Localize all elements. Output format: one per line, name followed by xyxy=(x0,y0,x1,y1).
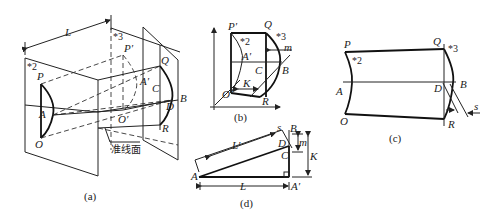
panel-c: P Q *3 *2 A D B O R s (c) xyxy=(335,35,480,145)
svg-text:R: R xyxy=(261,95,269,107)
panel-d: L′ s B D m C K A L A′ (d) xyxy=(190,121,318,210)
svg-text:A: A xyxy=(38,108,46,120)
svg-text:K: K xyxy=(242,77,251,89)
svg-text:O: O xyxy=(340,115,348,127)
svg-text:Q: Q xyxy=(161,54,169,66)
svg-text:*3: *3 xyxy=(113,31,123,42)
svg-text:R: R xyxy=(161,122,169,134)
svg-text:C: C xyxy=(152,82,160,94)
svg-text:O: O xyxy=(35,138,43,150)
svg-text:*2: *2 xyxy=(27,61,37,72)
svg-text:P: P xyxy=(36,70,44,82)
caption-a: (a) xyxy=(84,190,97,203)
svg-text:s: s xyxy=(277,121,281,133)
svg-text:D: D xyxy=(277,137,286,149)
svg-text:B: B xyxy=(290,122,297,134)
svg-text:O′: O′ xyxy=(222,88,233,100)
svg-text:D: D xyxy=(433,82,442,94)
panel-b: P′ Q *2 *3 m A′ C B O′ K R (b) xyxy=(210,18,292,124)
label-directrix-plane: 准线面 xyxy=(111,143,141,155)
svg-text:L′: L′ xyxy=(231,139,241,151)
svg-text:C: C xyxy=(255,64,263,76)
svg-text:*3: *3 xyxy=(448,43,458,54)
svg-text:P: P xyxy=(343,38,351,50)
svg-text:B: B xyxy=(460,78,467,90)
svg-text:s: s xyxy=(474,100,478,112)
svg-text:C: C xyxy=(281,149,289,161)
svg-text:*2: *2 xyxy=(240,36,250,47)
svg-text:P′: P′ xyxy=(227,20,238,32)
svg-text:R: R xyxy=(447,118,455,130)
svg-text:Q: Q xyxy=(264,18,272,30)
panel-a: L *2 P A O *3 P′ A′ O′ Q C D B R xyxy=(25,15,187,203)
svg-text:m: m xyxy=(284,41,292,53)
svg-text:m: m xyxy=(299,136,307,148)
svg-text:A: A xyxy=(335,85,343,97)
caption-c: (c) xyxy=(389,132,402,145)
label-L: L xyxy=(64,26,71,38)
svg-text:*2: *2 xyxy=(352,55,362,66)
svg-text:A′: A′ xyxy=(139,75,150,87)
svg-text:A′: A′ xyxy=(241,50,252,62)
svg-text:K: K xyxy=(309,150,318,162)
svg-text:P′: P′ xyxy=(123,42,134,54)
svg-text:L: L xyxy=(239,180,246,192)
caption-d: (d) xyxy=(240,197,253,210)
svg-text:Q: Q xyxy=(433,35,441,47)
svg-text:A: A xyxy=(190,170,198,182)
svg-text:B: B xyxy=(180,92,187,104)
svg-text:A′: A′ xyxy=(290,180,301,192)
svg-text:B: B xyxy=(282,64,289,76)
diagram-canvas: L *2 P A O *3 P′ A′ O′ Q C D B R xyxy=(0,0,491,223)
caption-b: (b) xyxy=(234,111,247,124)
